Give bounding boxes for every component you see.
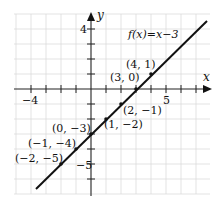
point-label-m1-m4: (−1, −4): [28, 137, 76, 150]
point-label-4-1: (4, 1): [126, 58, 156, 71]
y-axis-label: y: [96, 8, 104, 22]
x-axis-arrow-icon: [203, 85, 212, 93]
y-axis-arrow-icon: [87, 12, 95, 21]
function-graph: −4 5 4 −5 x y f(x)=x−3 (4, 1) (3, 0) (2,…: [0, 0, 222, 210]
grid: [14, 14, 210, 194]
y-tick-label-neg5: −5: [76, 159, 92, 172]
point-label-3-0: (3, 0): [110, 71, 140, 84]
y-tick-label-4: 4: [80, 23, 87, 36]
x-tick-label-neg4: −4: [22, 94, 38, 107]
x-axis-label: x: [203, 70, 210, 84]
function-label: f(x)=x−3: [127, 28, 179, 41]
point-label-0-m3: (0, −3): [52, 122, 91, 135]
point-label-2-m1: (2, −1): [123, 104, 162, 117]
point-label-m2-m5: (−2, −5): [15, 152, 63, 165]
point-label-1-m2: (1, −2): [104, 118, 143, 131]
x-tick-label-5: 5: [163, 94, 170, 107]
